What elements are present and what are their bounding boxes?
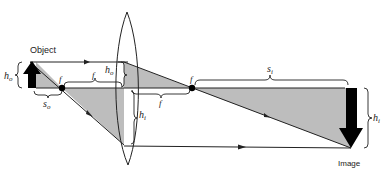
- brace-h-i-right: [364, 88, 372, 148]
- h-o-left-label: ho: [4, 70, 13, 83]
- object-label: Object: [30, 45, 57, 55]
- brace-f-lower: [132, 90, 190, 98]
- brace-h-i-lens: [131, 91, 137, 144]
- brace-h-o-left: [15, 62, 22, 88]
- ray-arrow-icon: [238, 145, 246, 150]
- s-o-label: so: [43, 98, 51, 111]
- lens-diagram: Object Image f f f f ho ho hi hi so si: [0, 0, 388, 174]
- s-i-label: si: [267, 63, 273, 76]
- f-lower-label: f: [159, 98, 163, 108]
- focal-left-label: f: [59, 74, 63, 84]
- h-i-right-label: hi: [373, 112, 380, 125]
- brace-s-o: [34, 91, 62, 98]
- h-o-lens-label: ho: [105, 64, 114, 77]
- ray-arrow-icon: [84, 60, 90, 65]
- focal-right-label: f: [190, 74, 194, 84]
- h-i-lens-label: hi: [139, 109, 146, 122]
- brace-s-i: [195, 75, 348, 85]
- image-label: Image: [338, 159, 361, 168]
- ray-parallel-out: [124, 146, 351, 148]
